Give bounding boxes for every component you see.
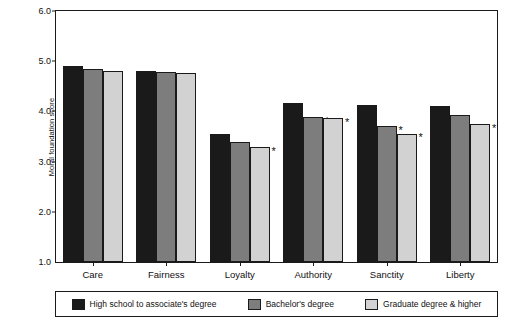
bar: [83, 69, 103, 262]
legend-label: Bachelor's degree: [266, 299, 334, 309]
legend-label: Graduate degree & higher: [383, 299, 481, 309]
bar: [283, 103, 303, 262]
bar: [323, 118, 343, 262]
bar: [303, 117, 323, 262]
bar: [397, 134, 417, 263]
significance-marker: *: [345, 117, 349, 128]
x-tick-mark: [93, 262, 94, 266]
x-tick-label: Loyalty: [225, 269, 255, 280]
legend-item: Graduate degree & higher: [365, 299, 481, 310]
y-tick-label: 1.0: [38, 257, 51, 267]
bar: [136, 71, 156, 262]
significance-marker: *: [272, 145, 276, 156]
x-tick-mark: [387, 262, 388, 266]
legend-swatch-icon: [365, 299, 378, 310]
y-tick-label: 6.0: [38, 6, 51, 16]
y-tick-mark: [52, 211, 56, 212]
x-tick-label: Authority: [295, 269, 333, 280]
legend-item: Bachelor's degree: [248, 299, 334, 310]
y-tick-label: 4.0: [38, 106, 51, 116]
y-tick-label: 3.0: [38, 157, 51, 167]
bar: [156, 72, 176, 262]
chart-legend: High school to associate's degreeBachelo…: [55, 291, 498, 317]
plot-area: Moral foundation score 1.02.03.04.05.06.…: [55, 10, 498, 263]
bar: [450, 115, 470, 262]
y-tick-mark: [52, 111, 56, 112]
legend-swatch-icon: [248, 299, 261, 310]
legend-swatch-icon: [72, 299, 85, 310]
y-tick-mark: [52, 61, 56, 62]
bar: [63, 66, 83, 262]
y-tick-label: 2.0: [38, 207, 51, 217]
y-tick-mark: [52, 161, 56, 162]
x-tick-mark: [166, 262, 167, 266]
bar: [230, 142, 250, 262]
x-tick-label: Sanctity: [370, 269, 404, 280]
chart-figure: Moral foundation score 1.02.03.04.05.06.…: [0, 0, 516, 327]
x-tick-mark: [240, 262, 241, 266]
x-tick-mark: [313, 262, 314, 266]
significance-marker: *: [492, 123, 496, 134]
bar: [176, 73, 196, 262]
legend-label: High school to associate's degree: [90, 299, 217, 309]
bar: [430, 106, 450, 262]
bar: [470, 124, 490, 262]
bar: [377, 126, 397, 262]
x-tick-label: Liberty: [446, 269, 475, 280]
y-tick-label: 5.0: [38, 56, 51, 66]
legend-item: High school to associate's degree: [72, 299, 217, 310]
x-tick-mark: [460, 262, 461, 266]
bar: [210, 134, 230, 263]
bar: [357, 105, 377, 262]
x-tick-label: Fairness: [148, 269, 184, 280]
bar: [250, 147, 270, 262]
y-tick-mark: [52, 11, 56, 12]
significance-marker: *: [419, 132, 423, 143]
bar: [103, 71, 123, 262]
x-tick-label: Care: [82, 269, 103, 280]
